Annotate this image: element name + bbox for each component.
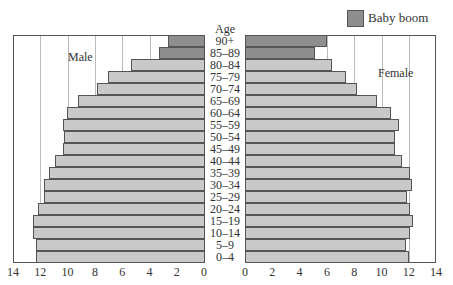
x-tick-left: 8 [85, 265, 105, 280]
male-bar-70–74 [97, 83, 205, 95]
male-bar-65–69 [78, 95, 205, 107]
female-bar-70–74 [245, 83, 357, 95]
x-tick-right: 14 [426, 265, 446, 280]
x-tick-right: 4 [290, 265, 310, 280]
male-bar-85–89 [159, 47, 205, 59]
female-bar-35–39 [245, 167, 410, 179]
male-bar-15–19 [33, 215, 205, 227]
male-plot-area [13, 35, 205, 263]
female-bar-30–34 [245, 179, 412, 191]
legend-label: Baby boom [368, 10, 428, 26]
male-bar-45–49 [63, 143, 205, 155]
female-bar-50–54 [245, 131, 395, 143]
x-tick-right: 6 [317, 265, 337, 280]
x-tick-left: 6 [112, 265, 132, 280]
x-tick-left: 10 [58, 265, 78, 280]
x-tick-right: 2 [262, 265, 282, 280]
female-bar-65–69 [245, 95, 377, 107]
x-tick-right: 0 [235, 265, 255, 280]
male-bar-10–14 [33, 227, 205, 239]
male-bar-55–59 [63, 119, 205, 131]
male-bar-50–54 [64, 131, 205, 143]
male-bar-20–24 [38, 203, 205, 215]
x-tick-left: 4 [140, 265, 160, 280]
female-bar-5–9 [245, 239, 406, 251]
x-tick-right: 8 [344, 265, 364, 280]
x-tick-left: 2 [167, 265, 187, 280]
male-bar-35–39 [49, 167, 205, 179]
x-tick-left: 12 [30, 265, 50, 280]
female-bar-55–59 [245, 119, 399, 131]
x-tick-left: 0 [194, 265, 214, 280]
x-tick-left: 14 [3, 265, 23, 280]
female-bar-80–84 [245, 59, 332, 71]
female-bar-40–44 [245, 155, 402, 167]
x-tick-right: 10 [372, 265, 392, 280]
female-bar-75–79 [245, 71, 346, 83]
female-bar-15–19 [245, 215, 413, 227]
x-tick-right: 12 [399, 265, 419, 280]
male-bar-25–29 [44, 191, 205, 203]
female-label: Female [378, 66, 413, 81]
female-bar-45–49 [245, 143, 395, 155]
male-bar-75–79 [108, 71, 205, 83]
female-bar-60–64 [245, 107, 391, 119]
female-bar-0–4 [245, 251, 409, 263]
male-bar-0–4 [36, 251, 205, 263]
female-bar-20–24 [245, 203, 410, 215]
age-group-label: 0–4 [205, 251, 245, 263]
female-bar-85–89 [245, 47, 315, 59]
male-bar-90+ [168, 35, 205, 47]
male-label: Male [68, 50, 93, 65]
female-bar-25–29 [245, 191, 407, 203]
legend-swatch-baby-boom [347, 10, 364, 27]
male-bar-80–84 [131, 59, 205, 71]
male-bar-5–9 [36, 239, 205, 251]
female-bar-10–14 [245, 227, 410, 239]
male-bar-30–34 [44, 179, 205, 191]
male-bar-60–64 [67, 107, 205, 119]
male-bar-40–44 [55, 155, 205, 167]
female-bar-90+ [245, 35, 327, 47]
